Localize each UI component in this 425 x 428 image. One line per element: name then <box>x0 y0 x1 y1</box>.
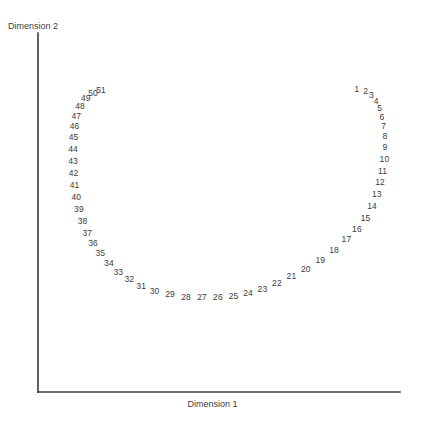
data-point-label: 36 <box>88 239 98 248</box>
data-point-label: 47 <box>72 112 82 121</box>
data-point-label: 12 <box>375 178 385 187</box>
data-point-label: 20 <box>301 264 311 273</box>
data-point-label: 16 <box>352 224 362 233</box>
data-point-label: 6 <box>379 113 384 122</box>
data-point-label: 45 <box>69 133 79 142</box>
data-point-label: 44 <box>68 145 78 154</box>
x-axis-title: Dimension 1 <box>0 400 425 409</box>
data-point-label: 19 <box>316 255 326 264</box>
data-point-label: 30 <box>150 287 160 296</box>
data-point-label: 40 <box>72 193 82 202</box>
data-point-label: 23 <box>258 285 268 294</box>
data-point-label: 13 <box>372 190 382 199</box>
data-point-label: 39 <box>74 205 84 214</box>
data-point-label: 42 <box>69 169 79 178</box>
data-point-label: 10 <box>380 154 390 163</box>
data-point-label: 21 <box>287 272 297 281</box>
data-point-label: 43 <box>68 157 78 166</box>
y-axis-title: Dimension 2 <box>8 22 58 31</box>
data-point-label: 9 <box>382 143 387 152</box>
data-point-label: 15 <box>361 213 371 222</box>
data-point-label: 7 <box>381 122 386 131</box>
data-point-label: 46 <box>70 122 80 131</box>
data-point-label: 11 <box>378 166 387 175</box>
data-point-label: 37 <box>82 228 92 237</box>
data-point-label: 33 <box>114 267 124 276</box>
data-point-label: 27 <box>197 293 207 302</box>
data-point-label: 8 <box>382 132 387 141</box>
data-point-label: 25 <box>229 292 239 301</box>
scatter-plot-figure: Dimension 2 Dimension 1 1234567891011121… <box>0 0 425 428</box>
data-point-label: 29 <box>165 290 175 299</box>
data-point-label: 24 <box>243 289 253 298</box>
data-point-label: 34 <box>104 259 114 268</box>
data-point-label: 32 <box>124 275 134 284</box>
data-point-label: 31 <box>136 281 146 290</box>
data-point-label: 26 <box>213 293 223 302</box>
data-point-label: 35 <box>95 249 105 258</box>
data-point-label: 18 <box>329 246 339 255</box>
data-point-label: 38 <box>78 217 88 226</box>
data-point-label: 17 <box>342 235 352 244</box>
data-point-label: 14 <box>367 202 377 211</box>
data-point-label: 1 <box>354 84 359 93</box>
data-point-label: 2 <box>363 87 368 96</box>
data-point-label: 51 <box>96 85 106 94</box>
data-point-label: 41 <box>70 181 80 190</box>
data-point-label: 48 <box>75 102 85 111</box>
data-point-label: 22 <box>272 279 282 288</box>
data-point-label: 28 <box>181 292 191 301</box>
